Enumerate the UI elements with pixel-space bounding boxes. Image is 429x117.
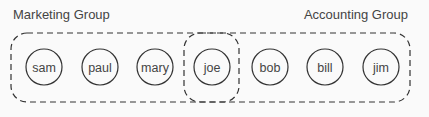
node-bob[interactable]: bob	[252, 49, 288, 85]
node-label: joe	[203, 61, 221, 75]
node-joe[interactable]: joe	[194, 49, 230, 85]
node-label: bill	[317, 61, 332, 75]
group-diagram: sam paul mary joe bob bill jim	[0, 0, 429, 117]
node-label: bob	[260, 61, 281, 75]
node-sam[interactable]: sam	[26, 49, 62, 85]
node-label: mary	[141, 61, 170, 75]
node-label: jim	[372, 61, 389, 75]
node-label: paul	[88, 61, 112, 75]
node-mary[interactable]: mary	[137, 49, 173, 85]
node-bill[interactable]: bill	[307, 49, 343, 85]
node-label: sam	[32, 61, 56, 75]
node-paul[interactable]: paul	[82, 49, 118, 85]
node-jim[interactable]: jim	[363, 49, 399, 85]
